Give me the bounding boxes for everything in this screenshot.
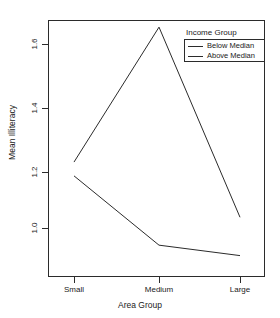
legend-entry-above-median[interactable]: Above Median: [188, 51, 255, 61]
series-line-above-median: [74, 176, 240, 256]
x-axis-title: Area Group: [0, 301, 280, 310]
y-tick-label-1.0: 1.0: [31, 217, 39, 239]
legend-entry-below-median[interactable]: Below Median: [188, 41, 254, 51]
x-tick-label-large: Large: [210, 286, 270, 294]
x-tick-mark-large: [240, 277, 241, 283]
legend-entry-label: Below Median: [207, 42, 254, 50]
legend-line-swatch-icon: [188, 46, 203, 47]
legend-title: Income Group: [186, 28, 237, 37]
x-tick-mark-small: [74, 277, 75, 283]
y-tick-label-1.2: 1.2: [31, 161, 39, 183]
x-tick-label-medium: Medium: [129, 286, 189, 294]
legend-box: Below Median Above Median: [184, 39, 265, 62]
y-tick-label-1.4: 1.4: [31, 97, 39, 119]
x-tick-mark-medium: [159, 277, 160, 283]
y-tick-label-1.6: 1.6: [31, 33, 39, 55]
legend-line-swatch-icon: [188, 56, 203, 57]
y-axis-title: Mean Illiteracy: [8, 93, 17, 173]
x-tick-label-small: Small: [44, 286, 104, 294]
interaction-plot-figure: 1.6 1.4 1.2 1.0 Small Medium Large Area …: [0, 0, 280, 318]
legend-entry-label: Above Median: [207, 52, 255, 60]
